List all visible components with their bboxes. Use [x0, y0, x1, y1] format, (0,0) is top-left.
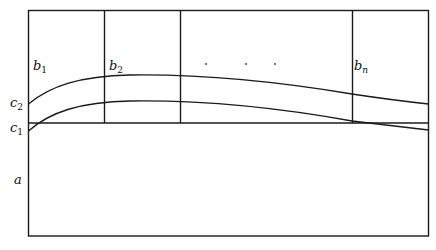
lower-curve-c1 — [29, 101, 429, 131]
label-bn: bn — [354, 58, 368, 75]
ellipsis-dots — [205, 63, 276, 65]
label-c2: c2 — [10, 95, 23, 112]
label-b2: b2 — [109, 58, 123, 75]
diagram-canvas: b1 b2 bn c2 c1 a — [0, 0, 436, 250]
label-a: a — [14, 172, 22, 187]
label-b1: b1 — [33, 58, 47, 75]
label-c1: c1 — [10, 120, 23, 137]
upper-curve-c2 — [29, 75, 429, 104]
